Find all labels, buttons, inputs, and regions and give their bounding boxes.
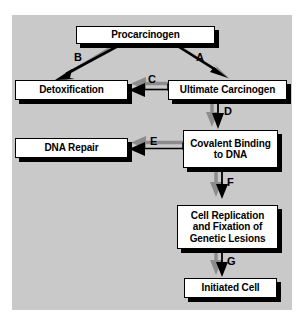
edge-label-c: C <box>148 74 156 85</box>
node-initiated-cell[interactable]: Initiated Cell <box>184 278 277 298</box>
edge-label-d: D <box>224 106 232 117</box>
node-covalent-binding[interactable]: Covalent Binding to DNA <box>183 130 278 168</box>
edge-label-f: F <box>227 177 234 188</box>
node-dna-repair-label: DNA Repair <box>44 142 98 154</box>
node-detoxification[interactable]: Detoxification <box>15 80 128 100</box>
node-ultimate-carcinogen[interactable]: Ultimate Carcinogen <box>168 80 287 100</box>
node-cell-replication[interactable]: Cell Replication and Fixation of Genetic… <box>177 205 278 249</box>
node-ultimate-carcinogen-label: Ultimate Carcinogen <box>180 84 275 96</box>
node-cell-replication-label: Cell Replication and Fixation of Genetic… <box>190 210 266 245</box>
edge-label-g: G <box>227 256 236 267</box>
node-procarcinogen[interactable]: Procarcinogen <box>76 26 215 44</box>
node-detoxification-label: Detoxification <box>39 84 104 96</box>
node-initiated-cell-label: Initiated Cell <box>201 282 259 294</box>
edge-label-a: A <box>196 52 204 63</box>
node-covalent-binding-label: Covalent Binding to DNA <box>190 138 271 161</box>
node-dna-repair[interactable]: DNA Repair <box>15 138 128 158</box>
diagram-root: Procarcinogen Detoxification Ultimate Ca… <box>0 0 303 326</box>
edge-label-e: E <box>150 136 157 147</box>
edge-label-b: B <box>74 52 82 63</box>
node-procarcinogen-label: Procarcinogen <box>111 29 180 41</box>
